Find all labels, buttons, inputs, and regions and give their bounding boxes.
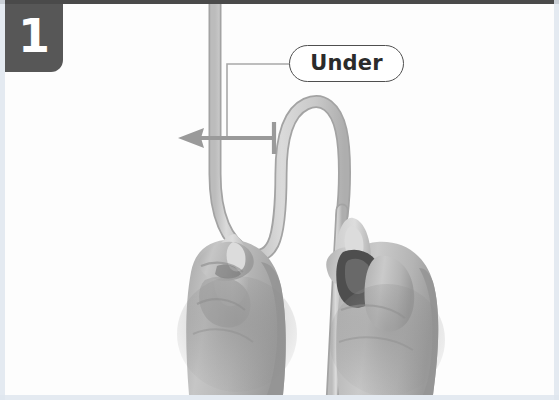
direction-arrow (178, 122, 274, 154)
step-number-badge: 1 (5, 4, 63, 72)
frame-edge-bottom (0, 395, 559, 400)
photo-plate: Under 1 (5, 4, 554, 395)
step-number-text: 1 (5, 4, 63, 72)
instruction-figure: Under 1 (0, 0, 559, 400)
leader-line (227, 64, 289, 138)
annotation-overlay (5, 4, 554, 395)
callout-label-under: Under (289, 45, 404, 82)
frame-edge-right (554, 0, 559, 400)
callout-label-text: Under (310, 53, 383, 74)
